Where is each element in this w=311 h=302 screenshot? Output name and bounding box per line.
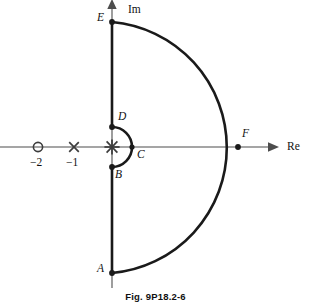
contour-point-label-f: F	[242, 128, 249, 140]
figure-caption: Fig. 9P18.2-6	[0, 291, 311, 302]
tick-label-minus-one: −1	[66, 157, 78, 169]
contour-point-c-dot	[129, 144, 134, 149]
tick-label-minus-two: −2	[30, 157, 42, 169]
contour-point-label-b: B	[115, 169, 122, 181]
contour-point-label-a: A	[97, 263, 104, 275]
real-axis-label: Re	[287, 141, 300, 153]
nyquist-contour-figure: Im Re −2 −1 A B C D E F Fig. 9P18.2-6	[0, 0, 311, 302]
contour-point-label-e: E	[97, 12, 104, 24]
imaginary-axis-label: Im	[128, 4, 141, 16]
contour-point-f-dot	[235, 144, 241, 150]
imaginary-axis-arrowhead	[107, 0, 116, 9]
pole-marker-origin	[104, 139, 119, 154]
contour-point-e-dot	[109, 19, 115, 25]
contour-point-a-dot	[109, 270, 115, 276]
real-axis-arrowhead	[268, 142, 279, 151]
contour-point-label-d: D	[118, 111, 126, 123]
contour-point-d-dot	[109, 124, 115, 130]
contour-diagram-canvas	[0, 0, 311, 302]
contour-point-label-c: C	[137, 149, 145, 161]
